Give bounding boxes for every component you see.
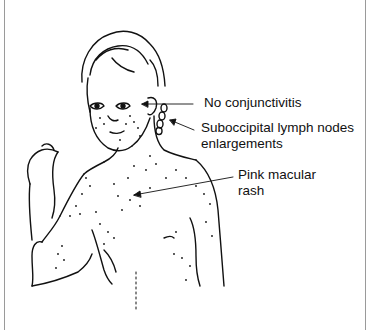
annotation-line: Suboccipital lymph nodes: [201, 120, 354, 136]
annotation-line: Pink macular: [238, 167, 316, 183]
annotation-lymph-nodes: Suboccipital lymph nodes enlargements: [201, 120, 354, 152]
annotation-pink-macular-rash: Pink macular rash: [238, 167, 316, 199]
annotation-no-conjunctivitis: No conjunctivitis: [204, 95, 302, 111]
annotation-line: rash: [238, 183, 316, 199]
annotation-line: No conjunctivitis: [204, 95, 302, 110]
annotation-line: enlargements: [201, 136, 354, 152]
child-illustration: [0, 0, 374, 330]
